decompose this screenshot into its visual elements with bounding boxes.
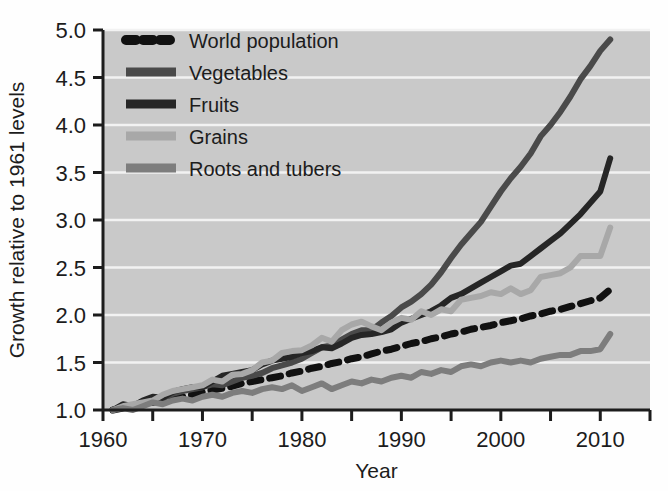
y-axis-title: Growth relative to 1961 levels [5,82,28,359]
x-tick-label: 2000 [476,427,525,452]
y-tick-label: 1.0 [55,398,86,423]
y-tick-label: 3.0 [55,208,86,233]
x-tick-label: 2010 [576,427,625,452]
y-tick-label: 3.5 [55,161,86,186]
legend-label: Grains [189,126,248,148]
y-tick-label: 5.0 [55,18,86,43]
legend-label: World population [189,30,339,52]
legend-label: Vegetables [189,62,288,84]
x-tick-label: 1970 [178,427,227,452]
x-tick-label: 1980 [277,427,326,452]
x-axis-title: Year [355,459,397,482]
legend-label: Roots and tubers [189,158,341,180]
y-tick-label: 4.0 [55,113,86,138]
chart-container: 196019701980199020002010 1.01.52.02.53.0… [0,0,668,491]
y-tick-label: 1.5 [55,351,86,376]
legend-label: Fruits [189,94,239,116]
growth-relative-to-1961-line-chart: 196019701980199020002010 1.01.52.02.53.0… [0,0,668,491]
x-tick-label: 1960 [79,427,128,452]
y-tick-label: 2.5 [55,256,86,281]
y-tick-label: 4.5 [55,66,86,91]
y-axis-tick-labels: 1.01.52.02.53.03.54.04.55.0 [55,18,86,423]
x-tick-label: 1990 [377,427,426,452]
y-tick-label: 2.0 [55,303,86,328]
